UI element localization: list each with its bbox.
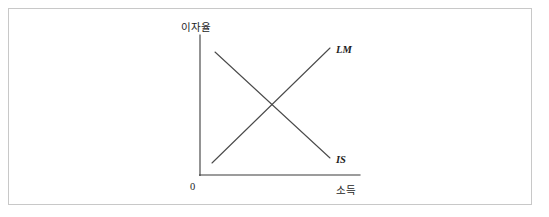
x-axis-label: 소득 [336,184,356,196]
lm-curve-label: LM [335,44,352,55]
is-lm-chart: 이자율 소득 0 LM IS [0,0,549,217]
is-curve [215,52,330,158]
is-curve-label: IS [335,154,346,165]
figure-root: 이자율 소득 0 LM IS [0,0,549,217]
origin-label: 0 [190,181,195,192]
y-axis-label: 이자율 [181,21,211,33]
